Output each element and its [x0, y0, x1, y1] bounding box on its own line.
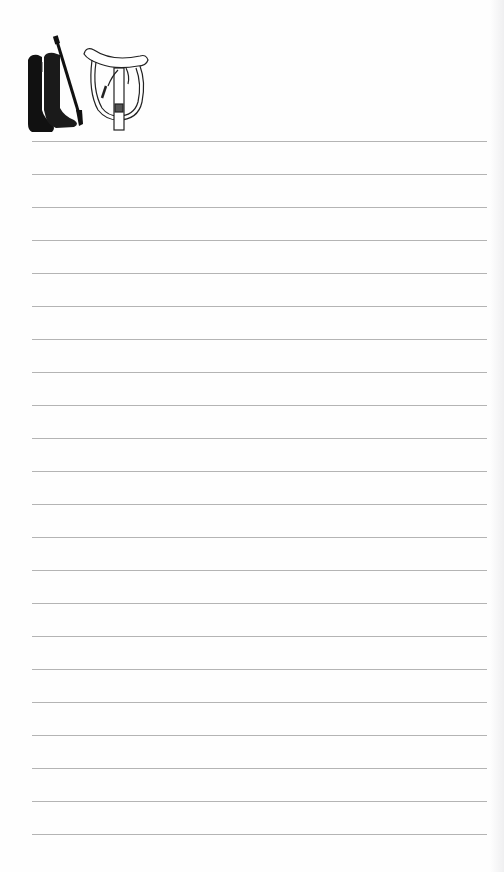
ruled-line	[32, 735, 487, 736]
riding-boots-icon	[28, 53, 77, 132]
ruled-line	[32, 603, 487, 604]
ruled-line	[32, 537, 487, 538]
ruled-line	[32, 405, 487, 406]
ruled-line	[32, 636, 487, 637]
ruled-line	[32, 306, 487, 307]
ruled-line	[32, 570, 487, 571]
notepad-page	[0, 0, 504, 872]
ruled-line	[32, 174, 487, 175]
ruled-line	[32, 504, 487, 505]
ruled-line	[32, 438, 487, 439]
ruled-line	[32, 372, 487, 373]
page-edge-shadow	[490, 0, 504, 872]
ruled-line	[32, 207, 487, 208]
ruled-line	[32, 240, 487, 241]
ruled-line	[32, 768, 487, 769]
equestrian-illustration	[22, 32, 172, 136]
ruled-line	[32, 669, 487, 670]
ruled-line	[32, 834, 487, 835]
ruled-line	[32, 471, 487, 472]
ruled-line	[32, 141, 487, 142]
ruled-line	[32, 273, 487, 274]
ruled-line	[32, 801, 487, 802]
saddle-icon	[84, 49, 148, 130]
ruled-line	[32, 702, 487, 703]
ruled-line	[32, 339, 487, 340]
